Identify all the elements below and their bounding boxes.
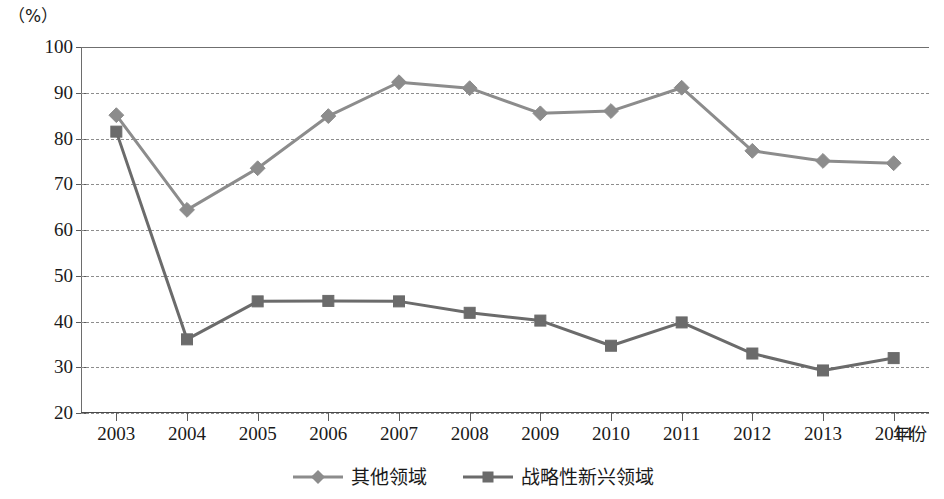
gridline-20 xyxy=(81,413,929,414)
x-tick-mark-2007 xyxy=(399,413,400,421)
x-tick-mark-2003 xyxy=(116,413,117,421)
data-point-2004 xyxy=(182,334,193,345)
data-point-2014 xyxy=(888,353,899,364)
y-axis-tick-label-group: 1009080706050403020 xyxy=(21,47,73,413)
data-point-2007 xyxy=(392,75,407,90)
x-tick-label-2008: 2008 xyxy=(451,424,489,444)
x-axis-title: 年份 xyxy=(893,424,927,444)
data-point-2005 xyxy=(252,296,263,307)
x-tick-mark-2008 xyxy=(470,413,471,421)
data-point-2007 xyxy=(394,296,405,307)
series-other xyxy=(109,75,901,217)
y-tick-label-90: 90 xyxy=(27,83,73,102)
data-point-2006 xyxy=(323,295,334,306)
x-tick-mark-2009 xyxy=(540,413,541,421)
series-line xyxy=(116,82,893,210)
x-tick-mark-2010 xyxy=(611,413,612,421)
x-tick-mark-2012 xyxy=(752,413,753,421)
data-point-2014 xyxy=(886,156,901,171)
series-layer xyxy=(81,47,929,413)
y-tick-label-70: 70 xyxy=(27,174,73,193)
data-point-2009 xyxy=(535,315,546,326)
y-tick-label-40: 40 xyxy=(27,312,73,331)
x-tick-label-2009: 2009 xyxy=(521,424,559,444)
x-tick-mark-2011 xyxy=(682,413,683,421)
x-tick-label-2005: 2005 xyxy=(239,424,277,444)
y-tick-label-30: 30 xyxy=(27,357,73,376)
data-point-2011 xyxy=(676,317,687,328)
data-point-2008 xyxy=(464,307,475,318)
x-tick-label-2010: 2010 xyxy=(592,424,630,444)
x-tick-mark-2013 xyxy=(823,413,824,421)
y-tick-label-20: 20 xyxy=(27,403,73,422)
x-tick-label-2012: 2012 xyxy=(733,424,771,444)
x-tick-label-2004: 2004 xyxy=(168,424,206,444)
data-point-2013 xyxy=(816,153,831,168)
x-tick-mark-2006 xyxy=(328,413,329,421)
plot-area xyxy=(81,47,929,413)
chart-legend: 其他领域战略性新兴领域 xyxy=(0,466,944,488)
x-tick-label-2013: 2013 xyxy=(804,424,842,444)
x-tick-label-2006: 2006 xyxy=(309,424,347,444)
data-point-2008 xyxy=(462,81,477,96)
legend-item-other[interactable]: 其他领域 xyxy=(291,466,427,488)
x-tick-mark-2014 xyxy=(894,413,895,421)
y-tick-label-60: 60 xyxy=(27,220,73,239)
data-point-2003 xyxy=(111,126,122,137)
x-tick-label-2003: 2003 xyxy=(97,424,135,444)
diamond-marker xyxy=(291,468,345,486)
legend-label: 其他领域 xyxy=(351,466,427,488)
data-point-2009 xyxy=(533,106,548,121)
data-point-2010 xyxy=(606,340,617,351)
x-tick-mark-2004 xyxy=(187,413,188,421)
y-axis-unit-label: （%） xyxy=(8,2,58,27)
x-tick-label-2007: 2007 xyxy=(380,424,418,444)
line-chart: （%） 1009080706050403020 2003200420052006… xyxy=(0,0,944,499)
y-tick-label-50: 50 xyxy=(27,266,73,285)
series-strategic xyxy=(111,126,899,376)
series-line xyxy=(116,132,893,371)
data-point-2010 xyxy=(604,104,619,119)
legend-item-strategic[interactable]: 战略性新兴领域 xyxy=(461,466,654,488)
y-tick-label-100: 100 xyxy=(27,37,73,56)
y-tick-label-80: 80 xyxy=(27,129,73,148)
data-point-2012 xyxy=(747,348,758,359)
data-point-2013 xyxy=(818,365,829,376)
legend-label: 战略性新兴领域 xyxy=(521,466,654,488)
x-tick-mark-2005 xyxy=(258,413,259,421)
square-marker xyxy=(461,468,515,486)
x-tick-label-2011: 2011 xyxy=(663,424,700,444)
